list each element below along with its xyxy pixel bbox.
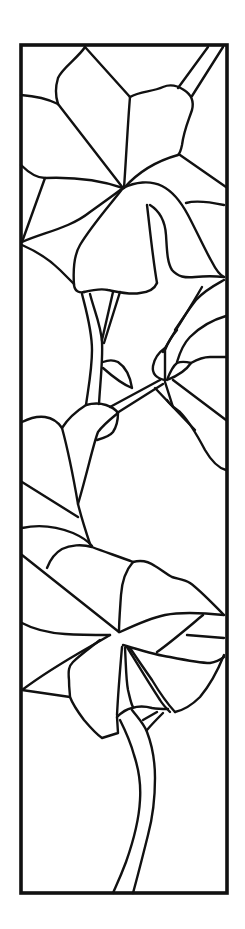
pattern-drawing: [0, 0, 245, 929]
stained-glass-pattern: Stained glass flower panel pattern: [0, 0, 245, 929]
background: [0, 0, 245, 929]
